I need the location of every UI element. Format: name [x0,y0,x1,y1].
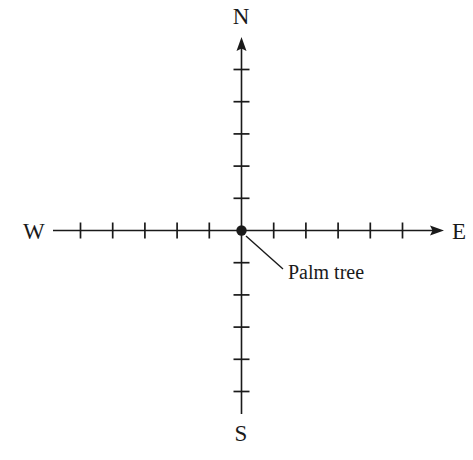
compass-diagram: N S W E Palm tree [0,0,473,460]
diagram-canvas: N S W E Palm tree [0,0,473,460]
palm-tree-leader-line [246,236,283,269]
south-label: S [235,421,248,446]
palm-tree-point-marker [236,225,246,235]
west-label: W [23,219,45,244]
north-label: N [233,4,250,29]
palm-tree-callout-label: Palm tree [288,261,364,283]
east-label: E [452,219,466,244]
